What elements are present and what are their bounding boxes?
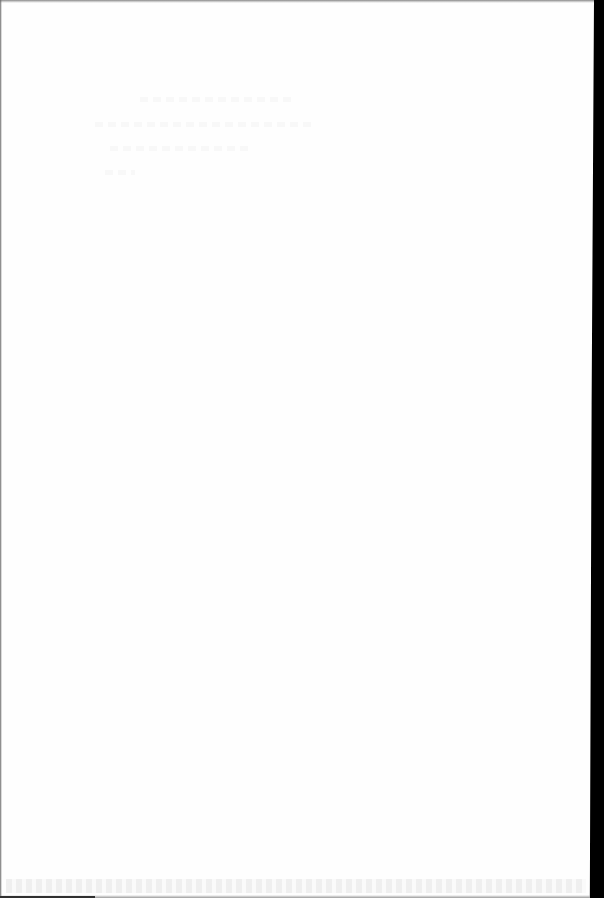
bleed-through-line: [140, 97, 295, 102]
scanner-bed-right-margin: [594, 0, 604, 898]
paper-top-edge-shadow: [0, 0, 594, 3]
bleed-through-line: [105, 170, 135, 175]
bleed-through-line: [95, 122, 315, 127]
bleed-through-line: [110, 146, 250, 151]
paper-left-edge-shadow: [0, 0, 2, 898]
scanned-page-view: [0, 0, 604, 898]
blank-paper-sheet: [0, 0, 594, 898]
bottom-bleed-through-text: [6, 879, 586, 893]
